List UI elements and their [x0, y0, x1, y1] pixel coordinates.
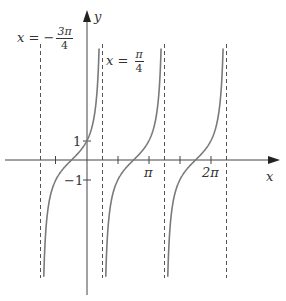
x-tick-label-pi: π [144, 166, 153, 179]
x-axis-label: x [266, 170, 273, 183]
y-tick-label-1: 1 [73, 135, 81, 148]
tangent-curves [44, 49, 223, 277]
y-axis-arrow-icon [83, 10, 91, 22]
tangent-branch-3 [168, 49, 223, 277]
x-axis-arrow-icon [268, 156, 280, 164]
asymptote-label-pi-4: x = π4 [106, 49, 144, 74]
asymptote-label-neg-3pi-4: x = −3π4 [17, 26, 73, 51]
x-tick-label-2pi: 2π [202, 166, 219, 179]
y-axis-label: y [94, 10, 101, 23]
tangent-branch-1 [44, 49, 99, 277]
tangent-branch-2 [106, 49, 161, 277]
y-tick-label-neg1: −1 [64, 174, 83, 187]
